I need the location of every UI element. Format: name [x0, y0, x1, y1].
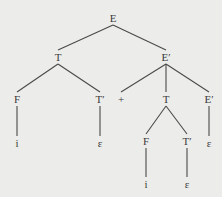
- node-E-prime: E′: [203, 94, 214, 105]
- leaf-epsilon: ε: [184, 179, 191, 190]
- tree-edge: [121, 64, 166, 92]
- leaf-epsilon: ε: [206, 138, 213, 149]
- tree-edge: [58, 64, 100, 92]
- node-F: F: [13, 94, 21, 105]
- tree-edge: [166, 64, 209, 92]
- node-F: F: [142, 136, 150, 147]
- node-T-prime: T′: [181, 136, 192, 147]
- node-T: T: [162, 94, 171, 105]
- leaf-epsilon: ε: [97, 138, 104, 149]
- tree-edge: [166, 106, 187, 134]
- node-E-root: E: [109, 13, 118, 24]
- leaf-i: i: [143, 179, 148, 190]
- tree-edge: [58, 25, 113, 50]
- tree-edge: [146, 106, 166, 134]
- node-T: T: [54, 52, 63, 63]
- leaf-i: i: [14, 138, 19, 149]
- tree-edge: [17, 64, 58, 92]
- tree-edge: [113, 25, 166, 50]
- node-plus: +: [117, 94, 125, 105]
- node-T-prime: T′: [94, 94, 105, 105]
- parse-tree-edges: [0, 0, 222, 197]
- node-E-prime: E′: [160, 52, 171, 63]
